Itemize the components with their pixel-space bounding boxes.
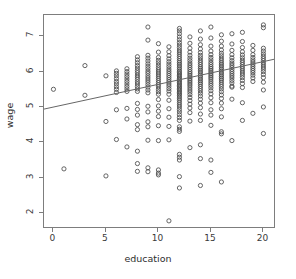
x-axis-tick — [105, 228, 106, 232]
plot-area — [43, 14, 275, 228]
y-axis-tick-label: 7 — [0, 30, 34, 39]
y-axis-tick-label-text: 7 — [27, 32, 36, 38]
y-axis-tick — [39, 106, 43, 107]
x-axis-tick-label: 0 — [40, 234, 64, 243]
y-axis-tick-label-text: 5 — [27, 103, 36, 109]
y-axis-tick — [39, 35, 43, 36]
y-axis-tick-label-text: 3 — [27, 173, 36, 179]
x-axis-tick-label: 5 — [93, 234, 117, 243]
x-axis-tick — [210, 228, 211, 232]
x-axis-tick — [157, 228, 158, 232]
y-axis-tick-label: 2 — [0, 207, 34, 216]
y-axis-tick-label-text: 4 — [27, 138, 36, 144]
x-axis-tick-label: 20 — [250, 234, 274, 243]
y-axis-tick-label-text: 6 — [27, 67, 36, 73]
x-axis-tick — [52, 228, 53, 232]
y-axis-tick — [39, 141, 43, 142]
x-axis-tick-label: 15 — [198, 234, 222, 243]
plot-clip — [44, 15, 274, 227]
y-axis-tick-label: 6 — [0, 66, 34, 75]
y-axis-tick-label-text: 2 — [27, 209, 36, 215]
regression-line — [44, 59, 274, 109]
x-axis-title: education — [0, 253, 296, 264]
y-axis-tick-label: 3 — [0, 172, 34, 181]
y-axis-tick — [39, 212, 43, 213]
y-axis-tick — [39, 71, 43, 72]
scatter-plot-figure: 234567 05101520 education wage — [0, 0, 296, 279]
y-axis-tick — [39, 177, 43, 178]
x-axis-tick — [262, 228, 263, 232]
y-axis-title: wage — [4, 91, 15, 141]
regression-line-layer — [44, 15, 274, 227]
x-axis-tick-label: 10 — [145, 234, 169, 243]
